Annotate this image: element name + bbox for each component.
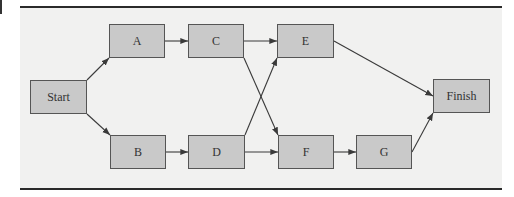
node-a-label: A bbox=[133, 34, 142, 49]
node-e-label: E bbox=[302, 34, 309, 49]
node-start: Start bbox=[30, 80, 87, 114]
node-f-label: F bbox=[303, 145, 310, 160]
node-e: E bbox=[277, 24, 334, 58]
edge-d-e bbox=[245, 58, 277, 135]
node-start-label: Start bbox=[47, 90, 70, 105]
node-d: D bbox=[188, 135, 245, 169]
edge-start-a bbox=[87, 58, 109, 80]
node-f: F bbox=[278, 135, 334, 169]
node-g-label: G bbox=[380, 145, 389, 160]
node-finish-label: Finish bbox=[446, 89, 476, 104]
node-g: G bbox=[356, 135, 412, 169]
edge-e-finish bbox=[334, 41, 433, 96]
edge-g-finish bbox=[412, 113, 433, 152]
node-a: A bbox=[109, 24, 165, 58]
node-c-label: C bbox=[212, 34, 220, 49]
node-b: B bbox=[110, 135, 166, 169]
node-b-label: B bbox=[134, 145, 142, 160]
node-c: C bbox=[188, 24, 244, 58]
node-finish: Finish bbox=[433, 79, 490, 113]
edge-start-b bbox=[87, 114, 110, 135]
node-d-label: D bbox=[212, 145, 221, 160]
